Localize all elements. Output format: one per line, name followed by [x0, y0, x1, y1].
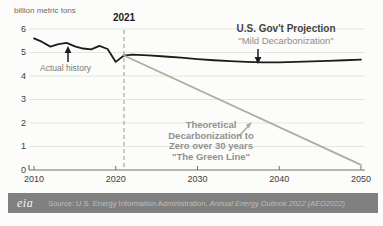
projection-annotation-title: U.S. Gov't Projection	[228, 23, 344, 34]
x-tick-label-2040: 2040	[261, 174, 297, 184]
x-tick-label-2010: 2010	[16, 174, 52, 184]
govt-projection-line	[124, 55, 361, 63]
actual-history-arrowhead	[65, 46, 72, 53]
green-line-annotation-line3: Zero over 30 years	[159, 141, 263, 152]
actual-history-line	[34, 38, 124, 62]
source-text-prefix: Source: U.S. Energy Information Administ…	[48, 199, 209, 208]
x-tick-label-2050: 2050	[343, 174, 379, 184]
year-2021-marker-label: 2021	[102, 12, 146, 23]
y-tick-label-4: 4	[6, 71, 26, 81]
x-tick-label-2030: 2030	[180, 174, 216, 184]
y-tick-label-0: 0	[6, 165, 26, 175]
source-text: Source: U.S. Energy Information Administ…	[48, 199, 345, 208]
eia-logo: eia	[17, 196, 33, 211]
green-line-annotation-line4: "The Green Line"	[159, 152, 263, 163]
projection-annotation-subtitle: "Mild Decarbonization"	[228, 35, 344, 46]
source-text-publication: Annual Energy Outlook 2022 (AEO2022)	[210, 199, 346, 208]
emissions-chart: billion metric tons 0123456 201020202030…	[0, 0, 383, 226]
y-tick-label-1: 1	[6, 141, 26, 151]
y-tick-label-6: 6	[6, 24, 26, 34]
source-attribution-bar: eia Source: U.S. Energy Information Admi…	[8, 193, 378, 213]
x-tick-label-2020: 2020	[98, 174, 134, 184]
y-tick-label-3: 3	[6, 94, 26, 104]
green-line-annotation: Theoretical Decarbonization to Zero over…	[159, 120, 263, 162]
y-tick-label-2: 2	[6, 118, 26, 128]
green-line-annotation-line1: Theoretical	[159, 120, 263, 131]
actual-history-annotation: Actual history	[40, 63, 91, 73]
y-tick-label-5: 5	[6, 47, 26, 57]
